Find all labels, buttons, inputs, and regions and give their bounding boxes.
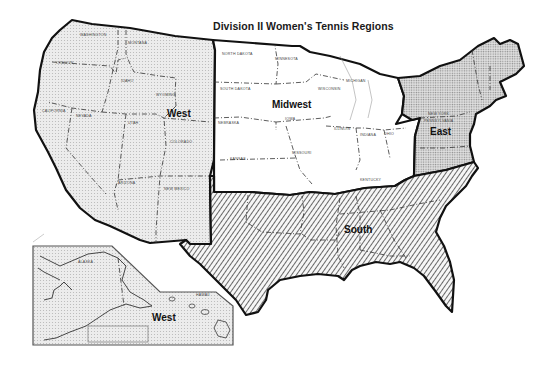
state-label-south-dakota: SOUTH DAKOTA (220, 87, 251, 91)
state-label-montana: MONTANA (128, 41, 148, 45)
state-label-kentucky: KENTUCKY (360, 178, 382, 182)
state-label-missouri: MISSOURI (292, 151, 311, 155)
state-label-alaska: ALASKA (78, 260, 94, 264)
state-label-utah: UTAH (128, 121, 139, 125)
state-label-indiana: INDIANA (360, 133, 376, 137)
region-east (398, 38, 524, 176)
state-label-minnesota: MINNESOTA (275, 57, 298, 61)
label-south: South (344, 224, 372, 235)
state-label-hawaii: HAWAII (196, 293, 210, 297)
region-west (34, 20, 215, 244)
state-label-michigan: MICHIGAN (346, 79, 366, 83)
state-label-california: CALIFORNIA (42, 109, 66, 113)
state-label-pennsylvania: PENNSYLVANIA (424, 119, 454, 123)
state-label-new-mexico: NEW MEXICO (164, 187, 190, 191)
state-label-ohio: OHIO (384, 132, 394, 136)
state-label-washington: WASHINGTON (80, 33, 107, 37)
state-label-nevada: NEVADA (76, 114, 92, 118)
state-label-colorado: COLORADO (170, 140, 192, 144)
label-east: East (430, 126, 452, 137)
state-label-iowa: IOWA (285, 117, 296, 121)
state-label-new-york: NEW YORK (428, 112, 450, 116)
state-label-wisconsin: WISCONSIN (318, 87, 341, 91)
state-label-arizona: ARIZONA (118, 181, 136, 185)
label-inset-west: West (152, 312, 176, 323)
state-label-oregon: OREGON (56, 61, 73, 65)
region-midwest (213, 40, 420, 195)
state-label-idaho: IDAHO (121, 79, 133, 83)
state-label-wyoming: WYOMING (156, 93, 175, 97)
state-label-kansas: KANSAS (230, 157, 246, 161)
state-label-illinois: ILLINOIS (334, 127, 351, 131)
us-regions-map: West Midwest East South West WASHINGTON … (0, 0, 553, 368)
label-west: West (167, 108, 191, 119)
state-label-north-dakota: NORTH DAKOTA (222, 52, 253, 56)
label-midwest: Midwest (272, 99, 312, 110)
state-label-nebraska: NEBRASKA (218, 121, 240, 125)
